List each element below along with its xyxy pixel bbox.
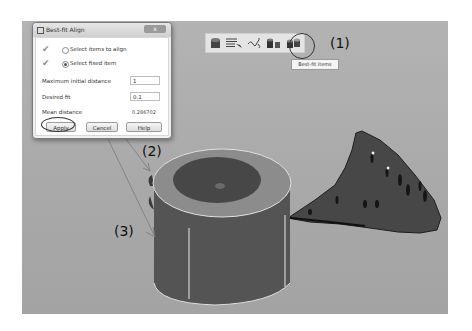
checkmark-icon: ✔: [42, 44, 50, 54]
mean-distance-label: Mean distance: [42, 109, 82, 115]
tooltip: Best-fit items: [291, 59, 339, 70]
desired-fit-label: Desired fit: [42, 94, 70, 100]
top-point-cloud: [173, 157, 261, 203]
cancel-button[interactable]: Cancel: [86, 122, 118, 132]
callout-3: (3): [114, 223, 134, 239]
dialog-app-icon: [37, 27, 44, 34]
apply-highlight-circle: [41, 117, 75, 132]
cylinder-object-icon[interactable]: [209, 37, 223, 49]
checkmark-icon: ✔: [42, 58, 50, 68]
option-label-items-to-align: Select items to align: [70, 46, 126, 52]
scanned-surface: [288, 131, 441, 233]
mean-distance-value: 0.286702: [132, 109, 156, 115]
callout-2: (2): [142, 143, 162, 159]
max-initial-distance-label: Maximum initial distance: [42, 78, 111, 84]
max-initial-distance-input[interactable]: 1: [130, 76, 160, 85]
desired-fit-input[interactable]: 0.1: [130, 92, 160, 101]
dialog-title-bar[interactable]: Best-fit Align x: [33, 23, 171, 37]
close-button[interactable]: x: [144, 25, 166, 33]
radio-select-items-to-align[interactable]: [62, 47, 69, 54]
best-fit-align-dialog: Best-fit Align x ✔ Select items to align…: [32, 22, 172, 139]
curve-link-icon[interactable]: [247, 37, 263, 49]
radio-select-fixed-item[interactable]: [62, 61, 69, 68]
dialog-title: Best-fit Align: [46, 23, 85, 37]
callout-1: (1): [330, 35, 350, 51]
best-fit-items-highlight-circle: [289, 33, 315, 59]
option-label-fixed-item: Select fixed item: [70, 60, 116, 66]
help-button[interactable]: Help: [126, 122, 162, 132]
list-edit-icon[interactable]: [225, 37, 245, 49]
align-objects-icon[interactable]: [266, 37, 282, 49]
